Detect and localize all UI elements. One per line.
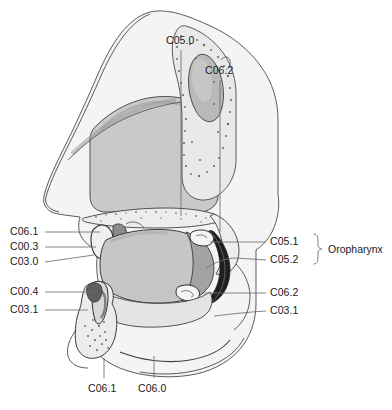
- anatomy-group: [44, 11, 279, 377]
- label-c06-1-left: C06.1: [10, 226, 39, 237]
- sagittal-head-illustration: [0, 0, 392, 410]
- label-c03-1-right: C03.1: [270, 305, 299, 316]
- label-c06-0: C06.0: [138, 383, 167, 394]
- label-c03-1-left: C03.1: [10, 304, 39, 315]
- label-c00-3: C00.3: [10, 241, 39, 252]
- leader-c03-0: [45, 255, 94, 262]
- label-oropharynx: Oropharynx: [328, 243, 383, 255]
- label-c03-0: C03.0: [10, 256, 39, 267]
- label-c06-2-top: C06.2: [205, 65, 234, 76]
- label-c00-4: C00.4: [10, 286, 39, 297]
- anatomy-figure: C05.0 C06.2 C06.1 C00.3 C03.0 C00.4 C03.…: [0, 0, 392, 410]
- gingiva: [87, 283, 103, 302]
- label-c05-2: C05.2: [270, 254, 299, 265]
- oropharynx-bracket: [314, 234, 322, 264]
- label-c05-1: C05.1: [270, 236, 299, 247]
- epiglottis-upper: [190, 230, 214, 246]
- label-c06-1-bottom: C06.1: [88, 383, 117, 394]
- label-c05-0: C05.0: [166, 35, 195, 46]
- label-c06-2-right: C06.2: [270, 287, 299, 298]
